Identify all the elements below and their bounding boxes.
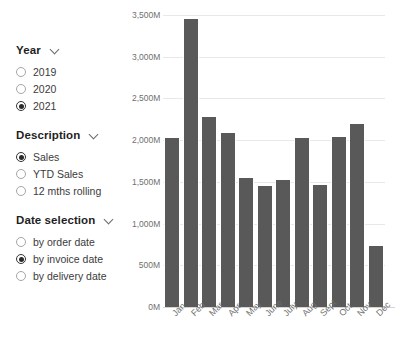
bar-mar[interactable] <box>201 117 217 307</box>
bar-slot <box>293 15 312 307</box>
chevron-down-icon[interactable] <box>104 215 115 226</box>
y-axis-tick-label: 3,500M <box>132 10 160 20</box>
y-axis-tick-label: 0M <box>132 302 160 312</box>
radio-mark-selected-icon[interactable] <box>16 101 26 111</box>
radio-year-2019-label: 2019 <box>33 66 56 78</box>
radio-year-2020[interactable]: 2020 <box>16 81 61 97</box>
bar-slot <box>274 15 293 307</box>
y-axis-tick-label: 3,000M <box>132 52 160 62</box>
filter-group-date-selection: Date selection by order date by invoice … <box>16 212 115 284</box>
radio-mark-icon[interactable] <box>16 237 26 247</box>
y-axis-tick-label: 1,500M <box>132 177 160 187</box>
bar-nov[interactable] <box>349 124 365 307</box>
y-axis-tick-label: 2,500M <box>132 93 160 103</box>
filter-group-year-title: Year <box>16 44 41 56</box>
bar-slot <box>367 15 386 307</box>
y-axis-tick-label: 500M <box>132 260 160 270</box>
bar-oct[interactable] <box>331 137 347 307</box>
sales-bar-chart: 0M500M1,000M1,500M2,000M2,500M3,000M3,50… <box>132 0 408 345</box>
filter-group-date-selection-header[interactable]: Date selection <box>16 212 115 228</box>
bar-slot <box>237 15 256 307</box>
bar-apr[interactable] <box>220 133 236 307</box>
bar-slot <box>163 15 182 307</box>
radio-date-by-order-date-label: by order date <box>33 236 95 248</box>
radio-year-2021-label: 2021 <box>33 100 56 112</box>
bar-slot <box>219 15 238 307</box>
radio-mark-icon[interactable] <box>16 186 26 196</box>
bar-may[interactable] <box>238 178 254 307</box>
bar-dec[interactable] <box>368 246 384 307</box>
filter-group-description-title: Description <box>16 129 80 141</box>
bar-june[interactable] <box>257 186 273 307</box>
radio-year-2021[interactable]: 2021 <box>16 98 61 114</box>
radio-mark-selected-icon[interactable] <box>16 254 26 264</box>
chevron-down-icon[interactable] <box>89 130 100 141</box>
filter-group-year: Year 2019 2020 2021 <box>16 42 61 114</box>
figure-caption <box>0 338 408 345</box>
bar-slot <box>256 15 275 307</box>
y-axis-tick-label: 2,000M <box>132 135 160 145</box>
plot-area <box>163 15 385 307</box>
radio-description-ytd-sales[interactable]: YTD Sales <box>16 166 101 182</box>
filter-group-description: Description Sales YTD Sales 12 mths roll… <box>16 127 101 199</box>
bar-july[interactable] <box>275 180 291 307</box>
bar-slot <box>348 15 367 307</box>
y-axis-tick-labels: 0M500M1,000M1,500M2,000M2,500M3,000M3,50… <box>132 0 160 345</box>
bar-series <box>163 15 385 307</box>
bar-aug[interactable] <box>294 138 310 307</box>
y-axis-tick-label: 1,000M <box>132 219 160 229</box>
chevron-down-icon[interactable] <box>50 45 61 56</box>
radio-description-ytd-sales-label: YTD Sales <box>33 168 83 180</box>
radio-mark-icon[interactable] <box>16 271 26 281</box>
radio-date-by-invoice-date-label: by invoice date <box>33 253 103 265</box>
bar-jan[interactable] <box>164 138 180 307</box>
bar-slot <box>330 15 349 307</box>
radio-year-2019[interactable]: 2019 <box>16 64 61 80</box>
bar-slot <box>311 15 330 307</box>
filter-group-year-header[interactable]: Year <box>16 42 61 58</box>
radio-description-sales[interactable]: Sales <box>16 149 101 165</box>
radio-mark-selected-icon[interactable] <box>16 152 26 162</box>
bar-slot <box>200 15 219 307</box>
radio-description-12-mths-rolling[interactable]: 12 mths rolling <box>16 183 101 199</box>
radio-date-by-delivery-date[interactable]: by delivery date <box>16 268 115 284</box>
radio-description-12-mths-rolling-label: 12 mths rolling <box>33 185 101 197</box>
radio-date-by-invoice-date[interactable]: by invoice date <box>16 251 115 267</box>
bar-sept[interactable] <box>312 185 328 307</box>
radio-date-by-delivery-date-label: by delivery date <box>33 270 107 282</box>
radio-description-sales-label: Sales <box>33 151 59 163</box>
bar-feb[interactable] <box>183 19 199 307</box>
radio-mark-icon[interactable] <box>16 67 26 77</box>
filter-panel: Year 2019 2020 2021 Description Sales YT… <box>0 0 132 345</box>
radio-date-by-order-date[interactable]: by order date <box>16 234 115 250</box>
radio-mark-icon[interactable] <box>16 84 26 94</box>
filter-group-description-header[interactable]: Description <box>16 127 101 143</box>
radio-mark-icon[interactable] <box>16 169 26 179</box>
radio-year-2020-label: 2020 <box>33 83 56 95</box>
filter-group-date-selection-title: Date selection <box>16 214 95 226</box>
bar-slot <box>182 15 201 307</box>
